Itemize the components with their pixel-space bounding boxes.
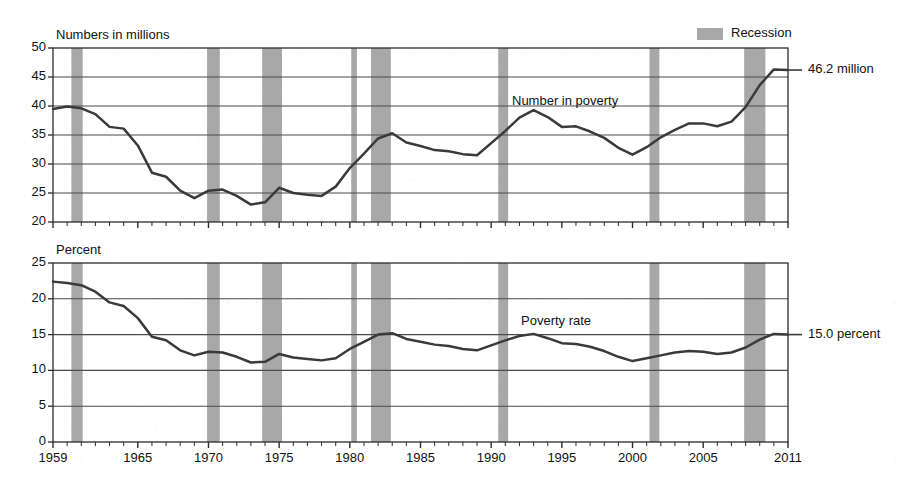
x-axis-tick-label: 1980: [324, 450, 376, 465]
y-axis-tick-label: 40: [10, 97, 46, 112]
panel-top: [48, 48, 802, 228]
y-axis-tick-label: 25: [10, 254, 46, 269]
x-axis-tick-label: 1990: [465, 450, 517, 465]
y-axis-tick-label: 35: [10, 126, 46, 141]
y-axis-tick-label: 15: [10, 326, 46, 341]
y-axis-tick-label: 20: [10, 213, 46, 228]
recession-band: [649, 263, 659, 442]
poverty-chart-figure: 20253035404550Numbers in millions46.2 mi…: [0, 0, 904, 493]
x-axis-tick-label: 1995: [536, 450, 588, 465]
y-axis-tick-label: 5: [10, 397, 46, 412]
axis-title-bottom: Percent: [56, 242, 101, 257]
end-value-label-bottom: 15.0 percent: [808, 326, 880, 341]
recession-band: [262, 263, 282, 442]
series-label-number-in-poverty: Number in poverty: [512, 93, 618, 108]
recession-bands-bottom: [71, 263, 765, 442]
axis-title-top: Numbers in millions: [56, 27, 169, 42]
recession-legend-swatch: [697, 28, 723, 40]
recession-band: [498, 263, 508, 442]
y-axis-tick-label: 25: [10, 184, 46, 199]
series-label-poverty-rate: Poverty rate: [521, 313, 591, 328]
y-axis-tick-label: 45: [10, 68, 46, 83]
recession-legend-label: Recession: [731, 25, 792, 40]
recession-band: [371, 263, 391, 442]
x-axis-tick-label: 1965: [112, 450, 164, 465]
y-axis-tick-label: 50: [10, 39, 46, 54]
chart-canvas: [0, 0, 904, 493]
x-axis-tick-label: 2005: [677, 450, 729, 465]
x-axis-tick-label: 1985: [395, 450, 447, 465]
x-axis-tick-label: 1970: [182, 450, 234, 465]
y-axis-tick-label: 0: [10, 433, 46, 448]
x-axis-tick-label: 2011: [762, 450, 814, 465]
panel-bottom: [48, 263, 802, 448]
x-axis-tick-label: 1975: [253, 450, 305, 465]
y-axis-tick-label: 20: [10, 290, 46, 305]
y-axis-tick-label: 30: [10, 155, 46, 170]
recession-band: [744, 263, 765, 442]
x-axis-tick-label: 1959: [27, 450, 79, 465]
x-axis-tick-label: 2000: [607, 450, 659, 465]
recession-band: [351, 263, 357, 442]
recession-band: [71, 263, 82, 442]
series-line-bottom: [53, 282, 788, 363]
end-value-label-top: 46.2 million: [808, 61, 874, 76]
series-line-top: [53, 69, 788, 204]
y-axis-tick-label: 10: [10, 361, 46, 376]
